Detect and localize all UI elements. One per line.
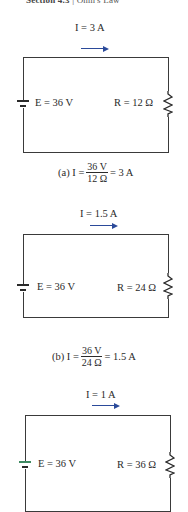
fraction-denominator: 12 Ω [87,173,107,183]
current-arrow-icon [92,405,118,406]
resistor-icon [165,452,175,478]
page-header: Section 4.3 | Ohm's Law [26,0,120,5]
section-number: Section 4.3 [26,0,70,5]
fraction: 36 V 24 Ω [81,346,103,367]
caption-prefix: (b) I = [52,351,79,362]
battery-icon [17,100,29,108]
header-separator: | [72,0,74,5]
current-label-b: I = 1.5 A [80,208,117,219]
equation-caption-a: (a) I = 36 V 12 Ω = 3 A [58,162,133,183]
resistor-icon [163,91,173,117]
circuit-loop-b [23,234,169,318]
battery-icon [19,461,31,469]
resistance-label-a: R = 12 Ω [114,97,153,108]
caption-result: = 3 A [110,167,133,178]
fraction-numerator: 36 V [86,162,108,173]
caption-prefix: (a) I = [58,167,84,178]
source-voltage-label-a: E = 36 V [35,97,73,108]
current-label-c: I = 1 A [86,389,116,400]
section-title: Ohm's Law [77,0,120,5]
current-arrow-icon [90,225,116,226]
source-voltage-label-c: E = 36 V [38,458,76,469]
resistance-label-c: R = 36 Ω [117,459,156,470]
fraction: 36 V 12 Ω [86,162,108,183]
fraction-numerator: 36 V [81,346,103,357]
equation-caption-b: (b) I = 36 V 24 Ω = 1.5 A [52,346,136,367]
current-label-a: I = 3 A [75,22,105,33]
resistor-icon [163,273,173,299]
battery-icon [17,284,29,292]
resistance-label-b: R = 24 Ω [117,282,156,293]
fraction-denominator: 24 Ω [82,357,102,367]
current-arrow-icon [81,48,107,49]
source-voltage-label-b: E = 36 V [37,281,75,292]
caption-result: = 1.5 A [104,351,135,362]
